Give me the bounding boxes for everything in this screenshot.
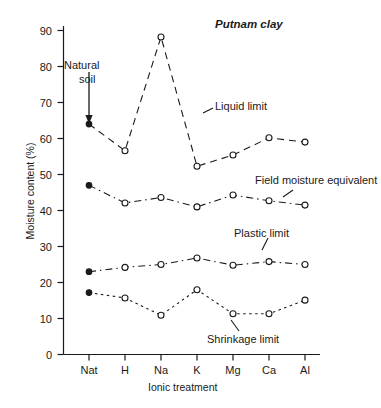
series-line bbox=[89, 37, 305, 166]
data-point-open bbox=[194, 255, 200, 261]
plastic-limit-label: Plastic limit bbox=[234, 227, 289, 239]
x-tick-label: Ca bbox=[262, 364, 277, 376]
chart-title: Putnam clay bbox=[215, 18, 283, 30]
data-point-filled bbox=[86, 269, 92, 275]
chart-axes bbox=[64, 26, 321, 355]
data-point-open bbox=[230, 311, 236, 317]
liquid-limit-label: Liquid limit bbox=[215, 100, 267, 112]
series-field-moisture-equivalent bbox=[86, 183, 308, 210]
y-axis-label: Moisture content (%) bbox=[24, 111, 36, 271]
data-point-open bbox=[302, 139, 308, 145]
data-point-open bbox=[266, 198, 272, 204]
chart-figure: 0102030405060708090 NatHNaKMgCaAl Putnam… bbox=[0, 0, 381, 408]
data-point-open bbox=[302, 262, 308, 268]
y-axis-ticks: 0102030405060708090 bbox=[40, 25, 64, 361]
y-tick-label: 60 bbox=[40, 133, 52, 145]
y-tick-label: 80 bbox=[40, 61, 52, 73]
series-liquid-limit bbox=[86, 34, 308, 169]
y-tick-label: 70 bbox=[40, 97, 52, 109]
y-tick-label: 20 bbox=[40, 277, 52, 289]
series-line bbox=[89, 290, 305, 316]
data-point-open bbox=[122, 264, 128, 270]
y-tick-label: 0 bbox=[46, 349, 52, 361]
moisture-content-line-chart: 0102030405060708090 NatHNaKMgCaAl bbox=[0, 0, 381, 408]
series-shrinkage-limit bbox=[86, 287, 308, 319]
series-plastic-limit bbox=[86, 255, 308, 274]
x-axis-ticks: NatHNaKMgCaAl bbox=[80, 355, 309, 376]
x-tick-label: K bbox=[193, 364, 201, 376]
x-tick-label: Na bbox=[154, 364, 169, 376]
data-point-open bbox=[158, 34, 164, 40]
data-point-open bbox=[266, 259, 272, 265]
data-point-filled bbox=[86, 290, 92, 296]
y-tick-label: 30 bbox=[40, 241, 52, 253]
x-tick-label: Mg bbox=[225, 364, 240, 376]
natural-soil-annotation-line1: Natural bbox=[64, 59, 99, 71]
natural-soil-annotation-line2: soil bbox=[79, 73, 96, 85]
y-tick-label: 40 bbox=[40, 205, 52, 217]
x-tick-label: Nat bbox=[80, 364, 97, 376]
data-point-open bbox=[158, 312, 164, 318]
shrinkage-limit-label: Shrinkage limit bbox=[207, 333, 279, 345]
data-point-open bbox=[302, 202, 308, 208]
y-tick-label: 50 bbox=[40, 169, 52, 181]
data-point-open bbox=[194, 287, 200, 293]
data-point-open bbox=[122, 200, 128, 206]
data-point-open bbox=[122, 295, 128, 301]
data-point-open bbox=[266, 311, 272, 317]
data-point-open bbox=[158, 262, 164, 268]
x-tick-label: Al bbox=[300, 364, 310, 376]
data-point-open bbox=[194, 163, 200, 169]
data-point-open bbox=[230, 262, 236, 268]
data-point-open bbox=[158, 195, 164, 201]
y-tick-label: 90 bbox=[40, 25, 52, 37]
data-point-open bbox=[194, 204, 200, 210]
data-point-filled bbox=[86, 183, 92, 189]
data-point-open bbox=[230, 192, 236, 198]
x-axis-label: Ionic treatment bbox=[148, 381, 217, 393]
data-point-open bbox=[266, 135, 272, 141]
data-point-open bbox=[302, 297, 308, 303]
field-moisture-equivalent-label: Field moisture equivalent bbox=[255, 174, 377, 186]
data-point-open bbox=[122, 148, 128, 154]
x-tick-label: H bbox=[121, 364, 129, 376]
data-point-open bbox=[230, 152, 236, 158]
y-tick-label: 10 bbox=[40, 313, 52, 325]
